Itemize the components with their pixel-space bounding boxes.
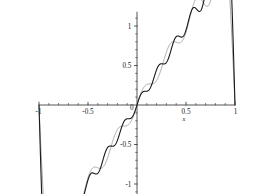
y-tick-label: 1 — [128, 23, 132, 31]
y-tick-label: 0.5 — [122, 62, 131, 70]
y-tick-label: -0.5 — [120, 141, 132, 149]
y-tick-label: -1 — [125, 181, 131, 189]
x-tick-label: 0 — [130, 104, 134, 112]
fourier-gibbs-plot: -1-0.500.51 -1-0.50.51 x — [0, 0, 269, 194]
x-tick-label: -0.5 — [82, 108, 94, 116]
x-tick-label: 1 — [234, 108, 238, 116]
chart-container: -1-0.500.51 -1-0.50.51 x — [0, 0, 269, 194]
x-tick-label: -1 — [36, 108, 42, 116]
x-axis-label: x — [182, 115, 186, 122]
